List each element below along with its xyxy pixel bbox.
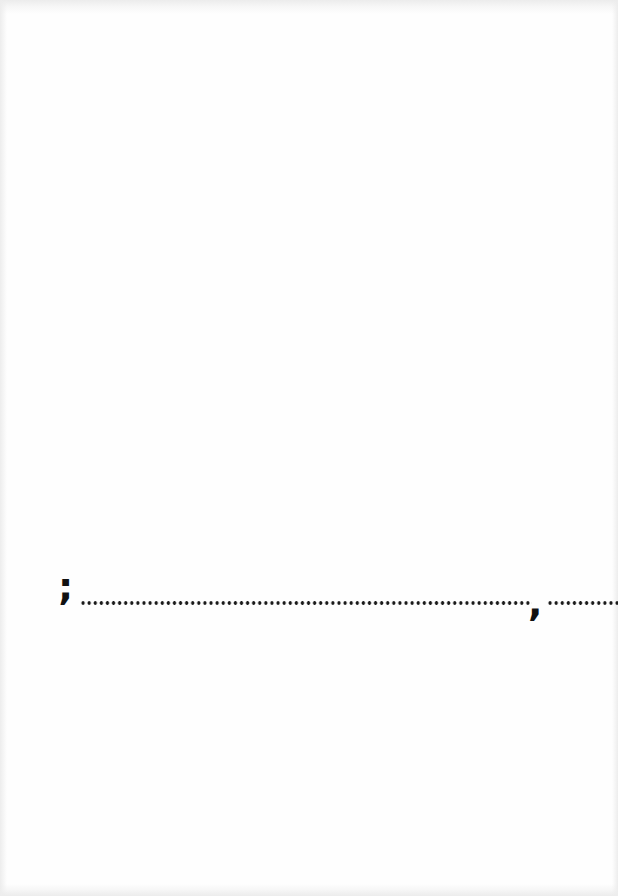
comma-mark: , <box>528 584 542 622</box>
document-page: ; , <box>0 0 618 896</box>
dotted-blank-1 <box>80 601 532 605</box>
dotted-blank-2 <box>547 601 618 605</box>
semicolon-mark: ; <box>58 568 73 606</box>
fill-in-line: ; , <box>0 0 618 896</box>
